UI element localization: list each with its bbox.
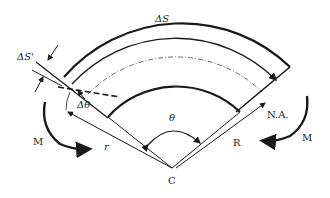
theta-label: θ (169, 112, 175, 123)
original-section-dashed (58, 87, 120, 97)
moment-right-label: M (302, 132, 312, 143)
delta-s-prime-label: ΔS' (16, 51, 34, 62)
moment-left-label: M (33, 136, 43, 147)
left-radial-edge (108, 117, 172, 168)
neutral-axis-arc (88, 57, 262, 94)
neutral-axis-label: N.A. (267, 109, 289, 120)
R-label: R (233, 137, 241, 148)
left-na-tick (66, 92, 70, 110)
radius-r-line (68, 112, 172, 168)
delta-s-label: ΔS (154, 13, 169, 24)
delta-s-prime-arrow-bottom (35, 77, 43, 92)
right-section-line (236, 67, 290, 112)
delta-s-prime-arrow-top (48, 45, 58, 60)
curved-beam-diagram: ΔS ΔS' Δθ θ r R N.A. C M M (0, 0, 330, 198)
theta-arc (148, 131, 200, 145)
delta-theta-label: Δθ (76, 99, 90, 110)
diagram-canvas: ΔS ΔS' Δθ θ r R N.A. C M M (0, 0, 330, 198)
right-radial-edge (172, 112, 240, 168)
outer-fiber-arc (64, 23, 290, 77)
center-label: C (168, 175, 176, 186)
r-label: r (104, 141, 110, 152)
